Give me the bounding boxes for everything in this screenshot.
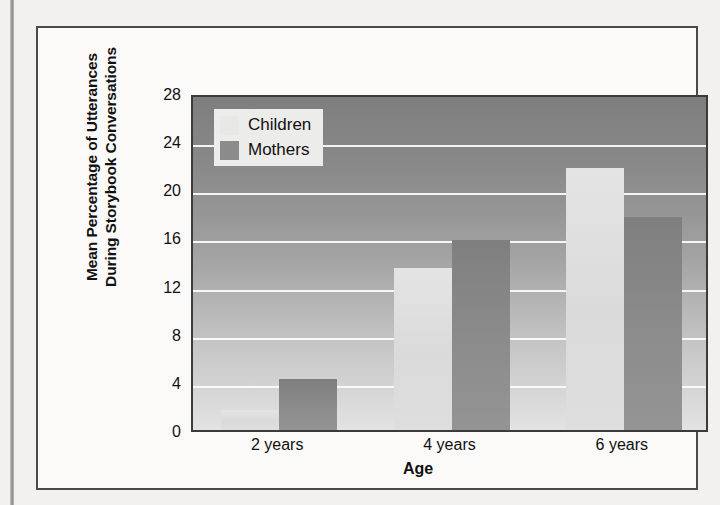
gridline — [193, 193, 706, 195]
y-tick-label: 4 — [141, 375, 181, 393]
y-axis-title-line-2: During Storybook Conversations — [101, 7, 120, 327]
y-axis-tick-labels: 0481216202428 — [133, 95, 181, 432]
y-tick-label: 0 — [141, 423, 181, 441]
y-tick-label: 28 — [141, 86, 181, 104]
x-axis-title: Age — [158, 460, 678, 478]
y-axis-title: Mean Percentage of Utterances During Sto… — [82, 7, 120, 327]
legend-item-children: Children — [220, 114, 311, 136]
bar-children-4-years — [394, 268, 452, 430]
bar-mothers-4-years — [452, 240, 510, 430]
x-tick-label: 6 years — [552, 436, 692, 454]
y-tick-label: 8 — [141, 327, 181, 345]
legend-item-mothers: Mothers — [220, 139, 311, 161]
bar-mothers-6-years — [624, 217, 682, 430]
y-tick-label: 24 — [141, 134, 181, 152]
legend-label-mothers: Mothers — [248, 140, 309, 160]
y-tick-label: 16 — [141, 230, 181, 248]
figure-container: Mean Percentage of Utterances During Sto… — [36, 26, 698, 490]
y-tick-label: 12 — [141, 279, 181, 297]
plot-area: Children Mothers — [191, 95, 708, 432]
bar-mothers-2-years — [279, 379, 337, 430]
y-axis-title-line-1: Mean Percentage of Utterances — [82, 7, 101, 327]
legend-swatch-mothers-icon — [220, 141, 239, 160]
legend: Children Mothers — [214, 109, 323, 166]
bar-children-6-years — [566, 168, 624, 430]
x-tick-label: 2 years — [207, 436, 347, 454]
x-tick-label: 4 years — [380, 436, 520, 454]
bar-children-2-years — [221, 410, 279, 430]
legend-swatch-children-icon — [220, 116, 239, 135]
y-tick-label: 20 — [141, 182, 181, 200]
legend-label-children: Children — [248, 115, 311, 135]
page-edge-artifact — [10, 0, 14, 505]
x-axis-tick-labels: 2 years4 years6 years — [191, 436, 708, 462]
